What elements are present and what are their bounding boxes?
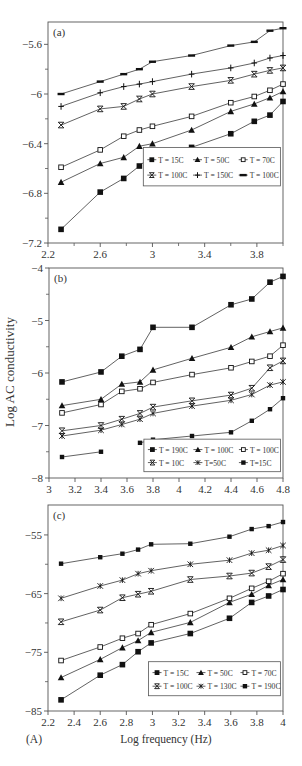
legend-label: T = 50C [204, 156, 229, 165]
marker-square-icon [58, 227, 64, 233]
y-tick-label: −5 [31, 315, 43, 327]
marker-square-icon [150, 447, 155, 452]
marker-open-square-icon [227, 596, 232, 601]
marker-square-icon [266, 593, 272, 599]
x-tick-label: 4.2 [198, 483, 212, 495]
conductivity-figure: −5.6−6−6.4−6.8−7.22.22.633.43.8(a)T = 15… [0, 0, 302, 766]
marker-square-icon [251, 119, 257, 125]
marker-small-square-icon [241, 460, 245, 464]
x-tick-label: 4 [280, 716, 286, 728]
y-axis-label: Log AC conductivity [2, 317, 17, 427]
legend-label: T = 10C [159, 459, 184, 468]
x-tick-label: 3.6 [120, 483, 134, 495]
marker-open-square-icon [98, 148, 103, 153]
y-tick-label: −5.6 [22, 38, 42, 50]
marker-square-icon [155, 670, 160, 675]
x-tick-label: 2.2 [41, 716, 55, 728]
marker-square-icon [280, 587, 286, 593]
figure-canvas: −5.6−6−6.4−6.8−7.22.22.633.43.8(a)T = 15… [0, 0, 302, 766]
x-tick-label: 2.8 [119, 716, 133, 728]
x-tick-label: 2.2 [41, 248, 55, 260]
chart-panel-c: −55−65−75−852.22.42.62.833.23.43.63.84(c… [25, 505, 287, 728]
chart-legend: T = 190CT = 100CT = 100CT = 10CT=50CT=15… [144, 439, 281, 472]
y-tick-label: −6.4 [22, 138, 42, 150]
panel-label: (c) [53, 509, 66, 522]
marker-square-icon [137, 347, 143, 353]
marker-dash-icon [266, 29, 273, 31]
panel-label: (b) [54, 272, 67, 285]
legend-label: T = 100C [158, 171, 187, 180]
marker-small-square-icon [60, 455, 64, 459]
marker-small-square-icon [59, 561, 63, 565]
marker-square-icon [228, 131, 234, 137]
x-tick-label: 4.8 [276, 483, 290, 495]
marker-small-square-icon [99, 450, 103, 454]
marker-small-square-icon [268, 407, 272, 411]
marker-open-square-icon [137, 128, 142, 133]
marker-open-square-icon [188, 611, 193, 616]
legend-label: T = 190C [159, 446, 188, 455]
x-tick-label: 3 [150, 248, 156, 260]
marker-square-icon [97, 189, 103, 195]
marker-small-square-icon [120, 552, 124, 556]
marker-square-icon [228, 302, 234, 308]
legend-label: T = 15C [158, 156, 183, 165]
marker-square-icon [150, 325, 156, 331]
y-tick-label: −65 [25, 588, 43, 600]
x-tick-label: 3.8 [250, 716, 264, 728]
marker-square-icon [249, 296, 255, 302]
marker-open-square-icon [281, 82, 286, 87]
legend-label: T = 70C [250, 156, 275, 165]
legend-label: T = 70C [251, 669, 276, 678]
marker-square-icon [227, 615, 233, 621]
marker-dash-icon [251, 41, 258, 43]
marker-dash-icon [280, 27, 287, 29]
marker-dash-icon [149, 61, 156, 63]
x-tick-label: 3 [46, 483, 52, 495]
marker-open-square-icon [98, 645, 103, 650]
marker-square-icon [137, 163, 143, 169]
x-axis-label: Log frequency (Hz) [120, 733, 211, 746]
legend-label: T = 150C [204, 171, 233, 180]
marker-open-square-icon [151, 380, 156, 385]
marker-square-icon [188, 631, 194, 637]
marker-open-square-icon [190, 372, 195, 377]
marker-square-icon [267, 112, 273, 118]
x-tick-label: 3 [150, 716, 156, 728]
x-tick-label: 3.6 [224, 716, 238, 728]
x-tick-label: 3.4 [198, 716, 212, 728]
chart-legend: T = 15CT = 50CT = 70CT = 100CT = 150CT =… [143, 147, 280, 185]
panels-group: −5.6−6−6.4−6.8−7.22.22.633.43.8(a)T = 15… [22, 22, 290, 728]
marker-square-icon [98, 369, 104, 375]
marker-square-icon [189, 325, 195, 331]
marker-square-icon [58, 697, 64, 703]
x-tick-label: 3.4 [198, 248, 212, 260]
marker-square-icon [97, 672, 103, 678]
marker-square-icon [280, 274, 286, 280]
marker-small-square-icon [98, 555, 102, 559]
x-tick-label: 4 [176, 483, 182, 495]
x-tick-label: 3.4 [94, 483, 108, 495]
marker-open-square-icon [99, 402, 104, 407]
marker-small-square-icon [227, 534, 231, 538]
marker-open-square-icon [241, 158, 245, 162]
x-tick-label: 2.6 [93, 248, 107, 260]
legend-label: T = 100C [204, 446, 233, 455]
marker-square-icon [135, 649, 141, 655]
legend-label: T = 130C [207, 682, 236, 691]
marker-square-icon [249, 600, 255, 606]
y-tick-label: −6 [30, 88, 42, 100]
marker-open-square-icon [268, 88, 273, 93]
marker-open-square-icon [252, 94, 257, 99]
x-tick-label: 2.6 [93, 716, 107, 728]
marker-open-square-icon [281, 343, 286, 348]
x-tick-label: 3.8 [250, 248, 264, 260]
marker-dash-icon [120, 73, 127, 75]
legend-label: T = 190C [251, 682, 280, 691]
marker-open-square-icon [120, 636, 125, 641]
marker-small-square-icon [281, 396, 285, 400]
marker-square-icon [59, 379, 65, 385]
marker-small-square-icon [138, 441, 142, 445]
marker-small-square-icon [266, 524, 270, 528]
marker-open-square-icon [249, 586, 254, 591]
